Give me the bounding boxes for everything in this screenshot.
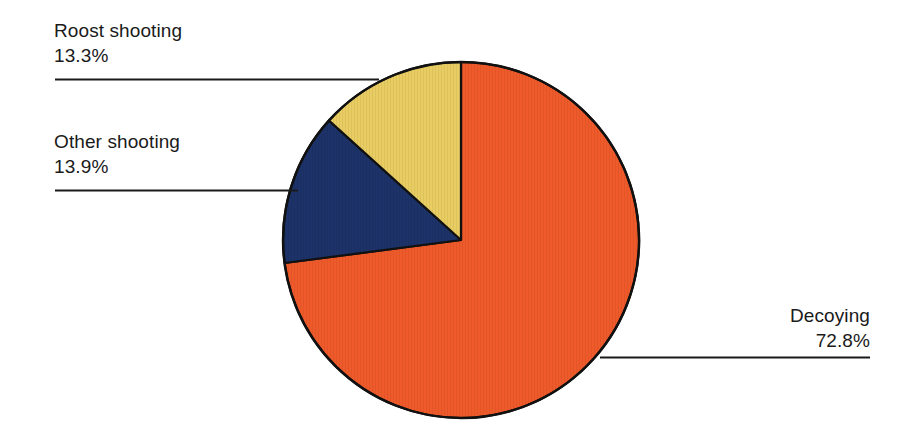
pie-label-decoying: Decoying 72.8% — [790, 303, 870, 353]
pie-label-other-shooting-percent: 13.9% — [54, 154, 180, 179]
pie-label-roost-shooting-category: Roost shooting — [54, 18, 182, 43]
pie-label-decoying-percent: 72.8% — [790, 328, 870, 353]
pie-label-decoying-category: Decoying — [790, 303, 870, 328]
pie-label-other-shooting-category: Other shooting — [54, 129, 180, 154]
pie-label-roost-shooting: Roost shooting 13.3% — [54, 18, 182, 68]
pie-label-other-shooting: Other shooting 13.9% — [54, 129, 180, 179]
pie-label-roost-shooting-percent: 13.3% — [54, 43, 182, 68]
pie-chart-figure: Roost shooting 13.3% Other shooting 13.9… — [0, 0, 916, 446]
